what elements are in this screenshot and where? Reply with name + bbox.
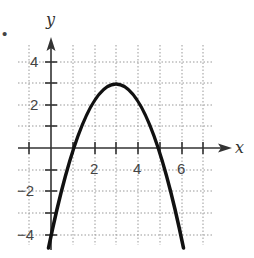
x-tick-label-6: 6 [177,160,185,177]
x-tick-label-4: 4 [133,160,141,177]
y-tick-label-neg4: −4 [17,226,34,243]
x-tick-label-2: 2 [90,160,98,177]
y-axis-label: y [45,10,56,29]
x-axis-label: x [235,138,244,157]
y-tick-label-neg2: −2 [17,182,34,199]
y-tick-label-4: 4 [30,53,38,70]
grid [18,45,212,245]
axes [18,48,222,250]
y-tick-label-2: 2 [30,96,38,113]
parabola-graph: • y x 2 4 6 4 2 −2 −4 [0,0,254,258]
bullet: • [2,25,7,42]
